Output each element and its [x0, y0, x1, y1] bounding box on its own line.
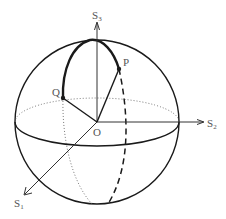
point-q-label: Q — [52, 86, 60, 98]
poincare-sphere-diagram: S3 S2 S1 P Q O — [0, 0, 226, 219]
origin-label: O — [93, 126, 101, 138]
point-p-label: P — [123, 56, 129, 68]
vector-op — [97, 69, 119, 122]
point-p — [117, 67, 121, 71]
point-q — [61, 96, 65, 100]
dotted-meridian — [63, 98, 92, 204]
s3-axis-label: S3 — [92, 9, 102, 23]
vector-oq — [63, 98, 97, 122]
s2-axis-label: S2 — [207, 117, 217, 131]
s1-axis — [25, 122, 97, 194]
s1-axis-label: S1 — [14, 197, 24, 211]
